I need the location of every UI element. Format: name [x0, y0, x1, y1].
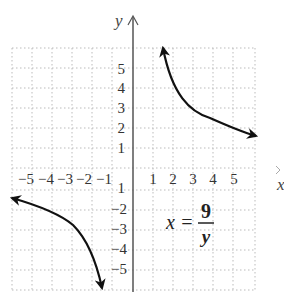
- svg-text:−3: −3: [57, 171, 73, 187]
- curve-quadrant-1: [163, 48, 256, 136]
- svg-text:5: 5: [118, 61, 126, 77]
- svg-text:−4: −4: [111, 241, 127, 257]
- svg-text:4: 4: [209, 171, 217, 187]
- svg-text:−2: −2: [111, 201, 127, 217]
- hyperbola-graph: y x −5 −4 −3 −2 −1 1 2 3 4 5 5 4 3 2 1 1…: [0, 0, 284, 300]
- svg-text:9: 9: [201, 200, 211, 222]
- svg-text:−5: −5: [111, 261, 127, 277]
- svg-text:y: y: [200, 226, 211, 247]
- svg-text:−3: −3: [111, 221, 127, 237]
- curve-quadrant-3: [12, 198, 102, 288]
- svg-text:−1: −1: [96, 171, 112, 187]
- x-axis-arrow-icon: [276, 166, 280, 174]
- svg-text:1: 1: [118, 180, 126, 196]
- svg-text:5: 5: [230, 171, 238, 187]
- svg-text:3: 3: [189, 171, 197, 187]
- x-tick-labels: −5 −4 −3 −2 −1 1 2 3 4 5: [18, 171, 238, 187]
- y-tick-labels: 5 4 3 2 1 1 −2 −3 −4 −5: [111, 61, 127, 277]
- svg-text:−4: −4: [38, 171, 54, 187]
- svg-text:x =: x =: [165, 211, 193, 233]
- svg-text:1: 1: [118, 140, 126, 156]
- x-axis-label: x: [276, 175, 284, 194]
- svg-text:4: 4: [118, 80, 126, 96]
- svg-text:−5: −5: [18, 171, 34, 187]
- svg-text:3: 3: [118, 100, 126, 116]
- svg-text:−2: −2: [76, 171, 92, 187]
- svg-text:2: 2: [169, 171, 177, 187]
- equation-label: x = 9 y: [165, 200, 214, 247]
- y-axis-label: y: [113, 11, 123, 30]
- svg-text:2: 2: [118, 120, 126, 136]
- svg-text:1: 1: [149, 171, 157, 187]
